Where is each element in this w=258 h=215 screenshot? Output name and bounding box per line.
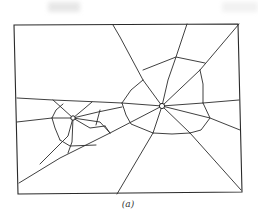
crack-line (73, 118, 110, 133)
large-impact-point (159, 103, 164, 108)
crack-line (117, 106, 162, 194)
small-impact-point (71, 116, 75, 120)
figure-caption: (a) (118, 199, 138, 209)
crack-line (53, 100, 73, 118)
crack-line (122, 103, 153, 133)
crack-line (162, 106, 241, 190)
crack-line (68, 118, 73, 153)
crack-lines (17, 24, 241, 194)
crack-line (162, 100, 239, 106)
crack-line (105, 126, 110, 133)
crack-line (19, 106, 162, 183)
crack-line (153, 133, 190, 134)
crack-line (162, 106, 240, 130)
crack-line (190, 103, 210, 133)
crack-line (52, 118, 60, 140)
crack-line (17, 98, 162, 106)
crack-line (52, 104, 63, 118)
crack-line (40, 118, 73, 164)
crack-line (73, 107, 122, 118)
crack-pattern-diagram (0, 0, 258, 215)
crack-line (200, 70, 203, 103)
crack-line (73, 118, 105, 128)
crack-line (17, 118, 73, 122)
crack-line (122, 80, 143, 103)
pane-frame (14, 24, 242, 194)
